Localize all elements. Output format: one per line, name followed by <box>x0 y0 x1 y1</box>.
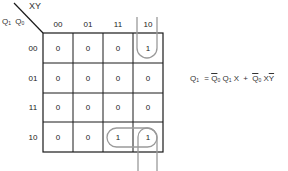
eq-term1-q1-sub: 1 <box>229 77 232 83</box>
eq-plus: + <box>243 74 248 83</box>
row-header: 10 <box>24 122 42 152</box>
kmap-cell: 0 <box>103 33 133 63</box>
eq-term1-x: X <box>234 74 239 83</box>
row-var-q0-sub: 0 <box>21 20 24 26</box>
kmap-cell: 0 <box>133 93 163 122</box>
eq-term2-q0-sub: 0 <box>258 77 261 83</box>
column-variables-label: XY <box>29 1 41 11</box>
col-header: 10 <box>133 18 163 30</box>
row-header: 11 <box>24 93 42 122</box>
kmap-cell: 0 <box>103 93 133 122</box>
kmap-cell: 1 <box>133 33 163 63</box>
kmap-cell: 0 <box>73 33 103 63</box>
eq-term2-y-bar: Y <box>269 74 274 83</box>
col-header: 01 <box>73 18 103 30</box>
kmap-cell: 0 <box>103 63 133 93</box>
kmap-cell: 0 <box>43 122 73 152</box>
kmap-cell: 0 <box>43 63 73 93</box>
eq-lhs-sub: 1 <box>196 77 199 83</box>
kmap-cell: 0 <box>73 93 103 122</box>
row-header: 01 <box>24 63 42 93</box>
row-header: 00 <box>24 33 42 63</box>
kmap-cell: 0 <box>43 93 73 122</box>
eq-equals: = <box>204 74 209 83</box>
col-header: 00 <box>43 18 73 30</box>
col-header: 11 <box>103 18 133 30</box>
kmap-cell: 1 <box>103 122 133 152</box>
kmap-cell: 0 <box>73 122 103 152</box>
kmap-cell: 0 <box>73 63 103 93</box>
boolean-equation: Q1 = Q0 Q1 X + Q0 XY <box>190 74 274 83</box>
kmap-cell: 0 <box>133 63 163 93</box>
kmap-cell: 0 <box>43 33 73 63</box>
row-variables-label: Q1 Q0 <box>2 17 24 26</box>
eq-term1-q0-sub: 0 <box>217 77 220 83</box>
row-var-q1-sub: 1 <box>8 20 11 26</box>
kmap-cell: 1 <box>133 122 163 152</box>
